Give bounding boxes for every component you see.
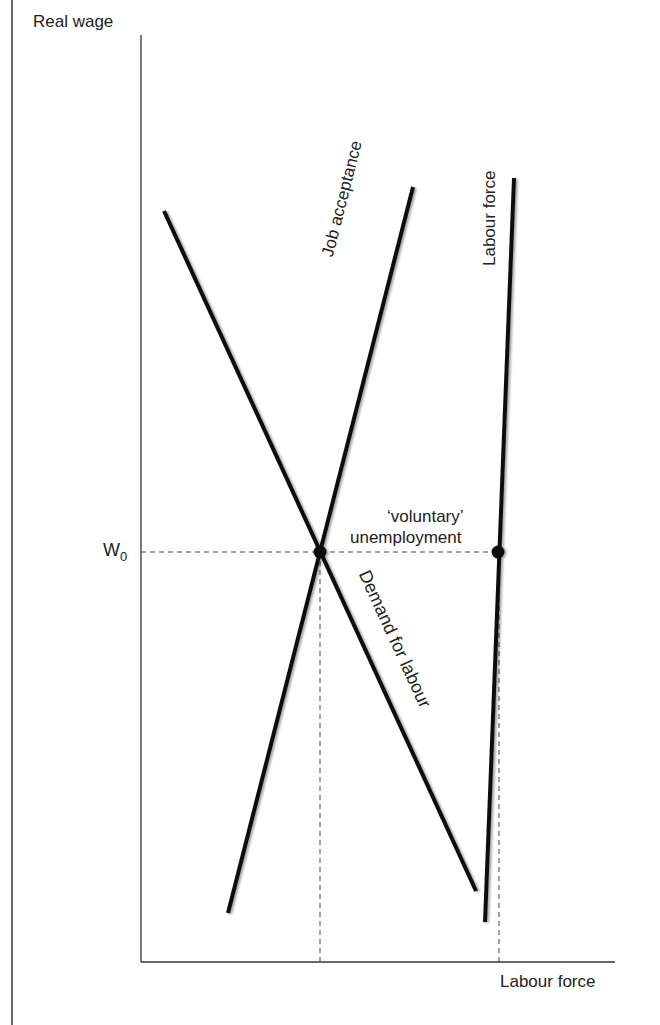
w0-main: W [103,540,120,560]
w0-label: W0 [103,540,127,564]
x-axis-label: Labour force [500,972,595,992]
y-axis-label: Real wage [33,12,113,32]
w0-subscript: 0 [120,549,127,564]
labour-force-label: Labour force [480,171,500,266]
diagram-canvas [0,0,660,1025]
equilibrium-point [314,546,327,559]
labour-force-point [492,546,505,559]
unemployment-label: unemployment [350,528,462,548]
voluntary-label: ‘voluntary’ [387,507,464,527]
